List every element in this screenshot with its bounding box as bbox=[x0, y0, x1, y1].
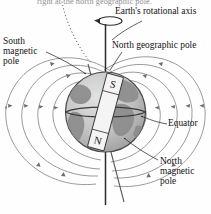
label-north-geographic-pole: North geographic pole bbox=[112, 41, 196, 51]
magnetic-axis-dotted-line bbox=[62, 2, 90, 62]
leader-north-geographic-pole bbox=[110, 52, 122, 70]
label-north-magnetic-pole: North magnetic pole bbox=[160, 157, 194, 186]
label-south-magnetic-pole: South magnetic pole bbox=[3, 37, 37, 66]
label-rotational-axis: Earth's rotational axis bbox=[115, 7, 196, 17]
earth-magnetic-field-figure: S N right at the north geographic pole. … bbox=[0, 0, 211, 214]
rotation-direction-arrow bbox=[94, 17, 122, 25]
leader-rotational-axis bbox=[112, 21, 142, 40]
field-line-arrowheads-left bbox=[8, 62, 71, 176]
label-equator: Equator bbox=[168, 119, 198, 129]
